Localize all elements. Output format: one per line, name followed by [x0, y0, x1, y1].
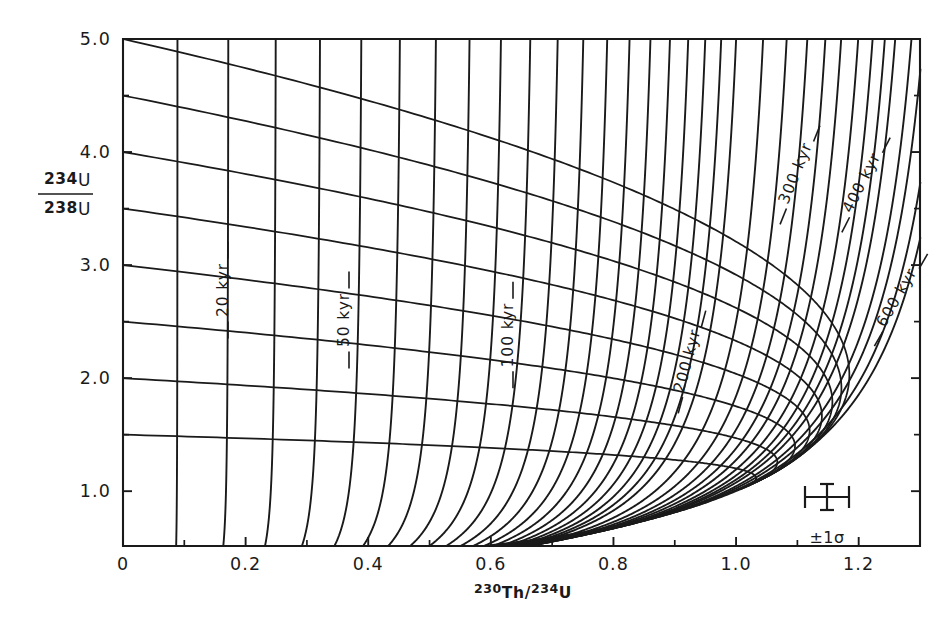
y-title-denominator-mass: 238	[44, 199, 78, 217]
curve-label: 300 kyr	[775, 140, 816, 207]
y-title-denominator-element: U	[78, 199, 90, 219]
x-tick-label: 0.2	[230, 554, 261, 574]
y-tick-label: 2.0	[80, 368, 111, 388]
x-title-mass-1: 230	[474, 581, 502, 596]
age-isochron-90kyr	[430, 39, 501, 545]
age-isochron-10kyr	[176, 39, 177, 545]
curve-label: 100 kyr	[499, 303, 517, 368]
x-tick-labels: 00.20.40.60.81.01.2	[117, 554, 874, 574]
age-isochron-30kyr	[265, 39, 276, 545]
age-isochron-300kyr	[531, 39, 841, 545]
y-title-numerator-element: U	[78, 170, 90, 190]
y-tick-label: 5.0	[80, 29, 111, 49]
y-tick-label: 1.0	[80, 481, 111, 501]
age-isochron-400kyr	[519, 39, 895, 545]
x-tick-label: 0.6	[475, 554, 506, 574]
svg-text:230Th/234U: 230Th/234U	[474, 581, 572, 602]
initial-ratio-contour	[123, 435, 756, 490]
age-isochrons	[176, 39, 920, 545]
initial-ratio-contour	[123, 39, 849, 476]
age-isochron-150kyr	[502, 39, 650, 545]
x-title-element-1: Th	[502, 584, 525, 602]
x-tick-label: 1.2	[843, 554, 874, 574]
x-title-element-2: U	[559, 584, 572, 602]
isochron-chart: 00.20.40.60.81.01.2 1.02.03.04.05.0 20 k…	[0, 0, 945, 628]
age-isochron-240kyr	[532, 39, 786, 545]
curve-label-leader	[842, 217, 850, 232]
age-isochron-160kyr	[509, 39, 670, 545]
y-tick-label: 4.0	[80, 142, 111, 162]
curve-label-leader	[701, 311, 705, 327]
age-isochron-375kyr	[522, 39, 884, 545]
age-isochron-40kyr	[302, 39, 320, 545]
age-isochron-130kyr	[485, 39, 607, 545]
curve-label: 50 kyr	[335, 293, 353, 347]
curve-label-group: 50 kyr	[335, 271, 353, 368]
y-title-numerator-mass: 234	[44, 170, 78, 188]
figure-root: 00.20.40.60.81.01.2 1.02.03.04.05.0 20 k…	[0, 0, 945, 628]
x-tick-label: 0	[117, 554, 129, 574]
curve-label-group: 20 kyr	[214, 241, 232, 338]
error-bar-marker: ±1σ	[805, 484, 849, 547]
curve-label-leader	[780, 209, 786, 225]
error-bar-label: ±1σ	[809, 528, 844, 547]
x-tick-label: 0.8	[598, 554, 629, 574]
x-tick-label: 0.4	[353, 554, 384, 574]
y-axis-title: 234 U 238 U	[38, 170, 93, 219]
age-isochron-170kyr	[515, 39, 689, 545]
x-title-mass-2: 234	[531, 581, 559, 596]
age-isochron-100kyr	[447, 39, 530, 545]
y-tick-label: 3.0	[80, 255, 111, 275]
y-tick-labels: 1.02.03.04.05.0	[80, 29, 111, 501]
curve-label: 20 kyr	[214, 263, 232, 317]
age-isochron-60kyr	[363, 39, 399, 545]
curve-label-group: 100 kyr	[499, 282, 517, 388]
curve-label-group: 300 kyr	[775, 126, 820, 225]
x-axis-title: 230Th/234U	[474, 581, 572, 602]
x-tick-label: 1.0	[721, 554, 752, 574]
